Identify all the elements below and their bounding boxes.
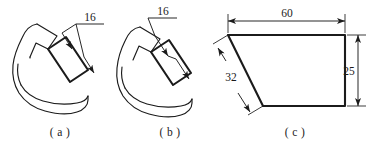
figure-a-leader-line [62, 24, 104, 33]
figure-c-dimension-value-length: 60 [281, 7, 293, 19]
figure-c-dimension-value-height: 25 [343, 65, 355, 77]
figure-b-leader-line [148, 18, 177, 36]
figure-c: 60 25 32 ( c ) [213, 7, 366, 139]
figure-c-plate-outline [228, 35, 345, 106]
figure-a-caption: ( a ) [50, 126, 71, 139]
drawing-canvas: 16 ( a ) 16 ( b ) [0, 0, 371, 148]
figure-c-dimension-25: 25 [343, 35, 366, 106]
figure-c-dim-arrow-slant-top [218, 48, 226, 61]
figure-c-dim-arrow-slant-bottom [238, 93, 250, 112]
figure-c-caption: ( c ) [285, 126, 306, 139]
figure-a: 16 ( a ) [13, 11, 104, 139]
figure-c-dimension-value-slant: 32 [225, 71, 237, 83]
figure-a-dim-arrow-upper [62, 33, 72, 49]
figure-c-dimension-60: 60 [228, 7, 345, 33]
technical-drawing-sheet: 16 ( a ) 16 ( b ) [0, 0, 371, 148]
figure-b-dim-connector [168, 56, 176, 59]
figure-b-inner-rectangle [151, 40, 191, 85]
figure-c-ext-line-slant-top [213, 35, 228, 44]
figure-b-blob-outline [117, 27, 192, 117]
figure-b-caption: ( b ) [159, 126, 180, 139]
figure-a-blob-outline [13, 24, 88, 114]
figure-a-dimension-value: 16 [84, 11, 96, 23]
figure-b-dimension-value: 16 [157, 5, 169, 17]
figure-c-ext-line-slant-bottom [248, 106, 263, 115]
figure-c-dimension-32: 32 [213, 35, 263, 115]
figure-b: 16 ( b ) [117, 5, 192, 139]
figure-a-inner-rectangle [48, 37, 88, 82]
figure-b-dimension-16: 16 [148, 5, 189, 79]
figure-b-dim-arrow-upper [155, 36, 168, 56]
